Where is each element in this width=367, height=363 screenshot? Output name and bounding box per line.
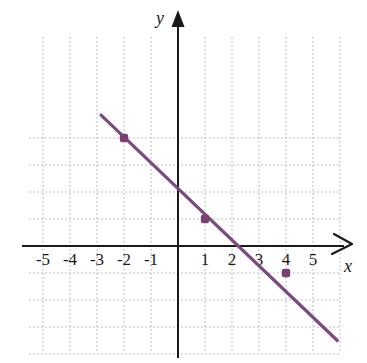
x-tick-label: -4: [63, 250, 78, 269]
x-tick-label: -1: [144, 250, 158, 269]
coordinate-plane-svg: -5-4-3-2-112345yx: [0, 0, 367, 363]
x-tick-labels: -5-4-3-2-112345: [36, 250, 317, 269]
y-axis-arrowhead-icon: [172, 10, 185, 27]
x-tick-label: -5: [36, 250, 50, 269]
data-line: [101, 115, 337, 340]
x-tick-label: -3: [90, 250, 104, 269]
x-tick-label: 5: [309, 250, 318, 269]
x-tick-label: 1: [201, 250, 210, 269]
x-axis-arrowhead-icon: [332, 234, 352, 254]
data-point-marker[interactable]: [282, 269, 290, 277]
x-tick-label: 4: [282, 250, 291, 269]
graph-figure: -5-4-3-2-112345yx: [0, 0, 367, 363]
x-tick-label: -2: [117, 250, 131, 269]
data-point-marker[interactable]: [201, 215, 209, 223]
x-tick-label: 2: [228, 250, 237, 269]
y-axis-label: y: [154, 8, 164, 28]
x-axis-label: x: [343, 256, 352, 276]
data-point-marker[interactable]: [120, 134, 128, 142]
